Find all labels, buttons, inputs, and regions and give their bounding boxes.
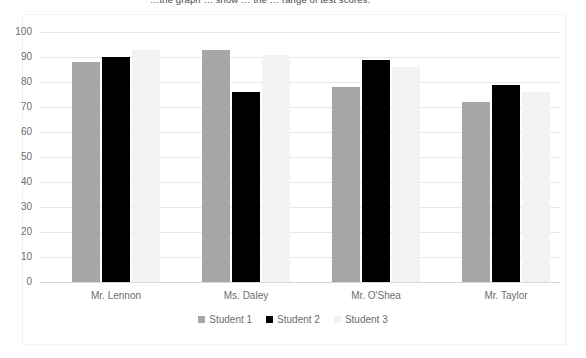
- bar: [392, 67, 420, 282]
- bar: [462, 102, 490, 282]
- bar: [262, 55, 290, 283]
- bar: [492, 85, 520, 283]
- y-axis-tick-label: 80: [0, 77, 32, 87]
- x-axis-category-label: Mr. Lennon: [56, 290, 176, 302]
- bar: [132, 50, 160, 283]
- y-axis-tick-label: 30: [0, 202, 32, 212]
- legend-swatch-icon: [198, 316, 205, 323]
- caption-text: …the graph … show … the … range of test …: [150, 0, 370, 5]
- caption-clipped: …the graph … show … the … range of test …: [0, 0, 586, 11]
- x-axis-category-label: Mr. Taylor: [446, 290, 566, 302]
- bar: [102, 57, 130, 282]
- legend-item: Student 3: [334, 314, 388, 325]
- bar: [72, 62, 100, 282]
- y-axis-tick-label: 60: [0, 127, 32, 137]
- y-axis-tick-label: 100: [0, 27, 32, 37]
- page-border-top: [22, 14, 566, 15]
- y-axis-tick-label: 40: [0, 177, 32, 187]
- x-axis-category-label: Ms. Daley: [186, 290, 306, 302]
- bar: [332, 87, 360, 282]
- chart-legend: Student 1Student 2Student 3: [0, 314, 586, 325]
- bar: [232, 92, 260, 282]
- legend-label: Student 1: [209, 314, 252, 325]
- legend-item: Student 2: [266, 314, 320, 325]
- bar-chart-figure: …the graph … show … the … range of test …: [0, 0, 586, 358]
- bar: [202, 50, 230, 283]
- legend-swatch-icon: [334, 316, 341, 323]
- gridline: [40, 32, 560, 33]
- axis-baseline: [40, 282, 560, 283]
- y-axis-tick-label: 10: [0, 252, 32, 262]
- y-axis-tick-label: 70: [0, 102, 32, 112]
- bar: [362, 60, 390, 283]
- x-axis-category-label: Mr. O'Shea: [316, 290, 436, 302]
- y-axis-tick-label: 50: [0, 152, 32, 162]
- legend-item: Student 1: [198, 314, 252, 325]
- page-border-bottom: [22, 344, 566, 345]
- legend-swatch-icon: [266, 316, 273, 323]
- y-axis-tick-label: 90: [0, 52, 32, 62]
- plot-area: [40, 32, 560, 282]
- legend-label: Student 2: [277, 314, 320, 325]
- y-axis-tick-label: 20: [0, 227, 32, 237]
- y-axis-tick-label: 0: [0, 277, 32, 287]
- bar: [522, 92, 550, 282]
- legend-label: Student 3: [345, 314, 388, 325]
